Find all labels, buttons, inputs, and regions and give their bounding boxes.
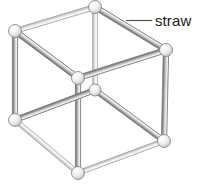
- straw-body: [161, 50, 168, 141]
- ball-connector-left-top-front: [9, 25, 22, 38]
- straw-right-bottom-to-bottom: [77, 139, 165, 175]
- ball-connector-sphere: [89, 1, 102, 14]
- straw-body: [13, 29, 79, 80]
- straw-top-back-vertical: [93, 7, 98, 90]
- ball-connector-sphere: [72, 167, 85, 180]
- straw-body: [93, 88, 165, 143]
- straw-body: [14, 118, 80, 175]
- straw-body: [93, 7, 98, 90]
- straw-top-back-to-left-top: [14, 5, 95, 34]
- straw-left-top-vertical: [12, 31, 17, 120]
- straw-left-top-to-mid-upper: [13, 29, 79, 80]
- ball-connector-sphere: [9, 114, 22, 127]
- straw-body: [14, 88, 96, 123]
- ball-connector-right-bottom-front: [158, 135, 171, 148]
- straw-body: [75, 78, 80, 173]
- straw-body: [77, 47, 167, 80]
- straw-mid-center-to-right-bottom: [93, 88, 165, 143]
- straw-left-bottom-to-bottom: [14, 118, 80, 175]
- ball-connector-mid-center-back: [89, 84, 101, 96]
- straw-right-top-vertical: [161, 50, 168, 141]
- straw-body: [12, 31, 17, 120]
- ball-connector-sphere: [160, 44, 173, 57]
- ball-connector-top-back: [89, 1, 102, 14]
- ball-connector-left-bottom-front: [9, 114, 22, 127]
- ball-connector-sphere: [89, 84, 101, 96]
- callout-label-straw: straw: [155, 13, 191, 28]
- straw-body: [77, 139, 165, 175]
- figure-root: straw: [0, 0, 198, 186]
- ball-connector-sphere: [158, 135, 171, 148]
- ball-connector-right-top-front: [160, 44, 173, 57]
- straw-body: [14, 5, 95, 34]
- straw-right-top-to-mid-upper: [77, 47, 167, 80]
- straw-mid-upper-vertical: [75, 78, 80, 173]
- ball-connector-sphere: [72, 72, 85, 85]
- ball-connector-mid-upper-front: [72, 72, 85, 85]
- straw-mid-center-to-left-bottom: [14, 88, 96, 123]
- ball-connector-sphere: [9, 25, 22, 38]
- ball-connector-bottom-front: [72, 167, 85, 180]
